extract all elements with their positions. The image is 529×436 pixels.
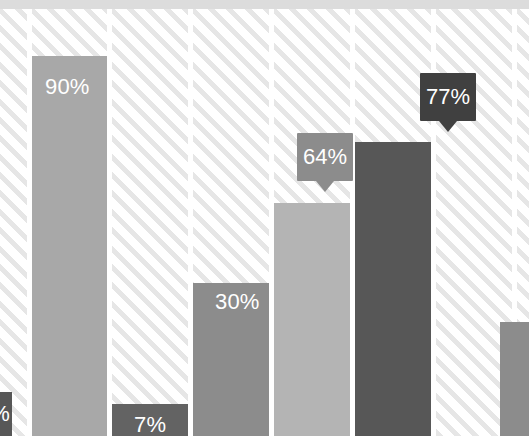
callout-64-tail: [316, 181, 334, 192]
bar-64[interactable]: [274, 203, 350, 436]
callout-64[interactable]: 64%: [297, 133, 353, 181]
top-band: [0, 0, 529, 9]
callout-left-clipped-text: 0%: [0, 403, 10, 425]
bar-value-label-30: 30%: [215, 291, 260, 313]
bar-right-partial[interactable]: [500, 322, 529, 436]
bar-value-label-7: 7%: [134, 414, 166, 436]
hatch-column-2: [112, 9, 188, 436]
callout-64-text: 64%: [303, 146, 347, 168]
hatch-column-0: [0, 9, 27, 436]
callout-77[interactable]: 77%: [420, 73, 476, 121]
callout-77-tail: [439, 121, 457, 132]
chart-canvas: 90% 7% 30% 64% 77% 0%: [0, 0, 529, 436]
bar-value-label-90: 90%: [45, 76, 90, 98]
bar-77[interactable]: [355, 142, 431, 436]
callout-77-text: 77%: [426, 86, 470, 108]
bar-90[interactable]: [32, 56, 107, 436]
callout-left-clipped[interactable]: 0%: [0, 392, 12, 436]
